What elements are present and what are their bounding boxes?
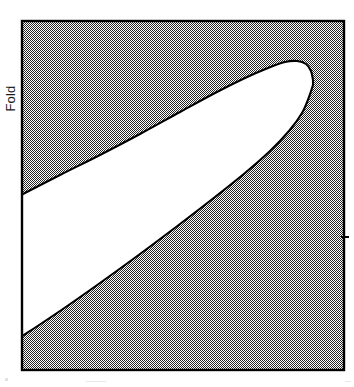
figure-root: Fold (0, 0, 354, 387)
fold-region-plot (0, 0, 354, 387)
